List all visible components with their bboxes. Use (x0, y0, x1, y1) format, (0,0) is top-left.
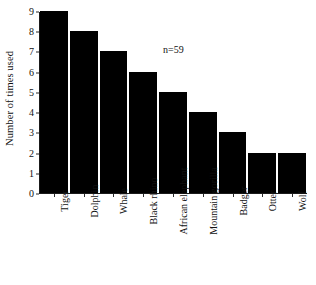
x-tick-mark (292, 194, 293, 197)
bar-chart-figure: Number of times used 0123456789 n=59 Tig… (0, 0, 316, 285)
sample-size-annotation: n=59 (163, 44, 184, 55)
x-tick-mark (233, 194, 234, 197)
y-tick-label: 6 (29, 68, 34, 78)
plot-area (40, 8, 306, 194)
x-category-label: Badger (238, 187, 249, 216)
x-label-cell: Otter (248, 199, 276, 283)
y-axis-label: Number of times used (2, 0, 18, 196)
x-category-label: Whale (118, 188, 129, 214)
x-tick-mark (262, 194, 263, 197)
x-category-label: Dolphin (89, 185, 100, 218)
x-tick-mark (54, 194, 55, 197)
x-label-cell: African elephant (159, 199, 187, 283)
bar (129, 72, 157, 193)
y-tick-label: 3 (29, 128, 34, 138)
x-axis-category-labels: TigerDolphinWhaleBlack rhinoAfrican elep… (40, 199, 306, 283)
x-tick-mark (203, 194, 204, 197)
x-category-label: Tiger (59, 190, 70, 211)
x-tick-mark (143, 194, 144, 197)
x-category-label: Mountain gorilla (208, 167, 219, 235)
x-label-cell: Mountain gorilla (189, 199, 217, 283)
x-label-cell: Dolphin (70, 199, 98, 283)
bar (219, 132, 247, 193)
x-category-label: Black rhino (148, 178, 159, 225)
x-label-cell: Black rhino (129, 199, 157, 283)
x-label-cell: Tiger (40, 199, 68, 283)
bar-series (40, 11, 306, 193)
x-label-cell: Badger (219, 199, 247, 283)
bar (70, 31, 98, 193)
x-tick-mark (173, 194, 174, 197)
y-tick-label: 5 (29, 88, 34, 98)
x-tick-mark (113, 194, 114, 197)
y-tick-label: 1 (29, 169, 34, 179)
x-category-label: Otter (267, 191, 278, 212)
y-tick-label: 7 (29, 47, 34, 57)
bar (278, 153, 306, 193)
y-axis-tick-labels: 0123456789 (18, 8, 36, 194)
y-tick-label: 9 (29, 7, 34, 17)
y-axis-label-text: Number of times used (5, 50, 16, 145)
y-tick-label: 2 (29, 149, 34, 159)
y-tick-label: 4 (29, 108, 34, 118)
y-tick-label: 0 (29, 189, 34, 199)
x-label-cell: Whale (100, 199, 128, 283)
y-tick-label: 8 (29, 27, 34, 37)
bar (40, 11, 68, 193)
x-category-label: African elephant (178, 168, 189, 235)
x-tick-mark (84, 194, 85, 197)
bar (100, 51, 128, 193)
x-label-cell: Wolf (278, 199, 306, 283)
x-category-label: Wolf (297, 191, 308, 211)
bar (248, 153, 276, 193)
